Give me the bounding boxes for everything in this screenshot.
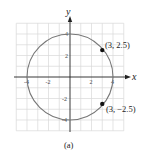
x-axis-arrow-icon bbox=[125, 75, 131, 79]
y-tick-label: -2 bbox=[62, 96, 67, 102]
point-label: (3, 2.5) bbox=[105, 40, 130, 50]
axes bbox=[14, 20, 127, 132]
x-axis-label: x bbox=[131, 71, 137, 82]
point-label: (3, −2.5) bbox=[106, 104, 136, 114]
x-tick-label: 2 bbox=[90, 79, 93, 85]
y-tick-label: 2 bbox=[65, 53, 68, 59]
figure-caption: (a) bbox=[64, 140, 74, 150]
point-marker bbox=[100, 102, 104, 106]
point-marker bbox=[100, 48, 104, 52]
y-axis-label: y bbox=[65, 6, 71, 17]
x-tick-label: -2 bbox=[46, 79, 51, 85]
graph-figure: x y -4 -2 2 4 4 2 -2 -4 (3, 2.5) (3, −2.… bbox=[0, 0, 148, 153]
x-tick-label: -4 bbox=[24, 79, 29, 85]
